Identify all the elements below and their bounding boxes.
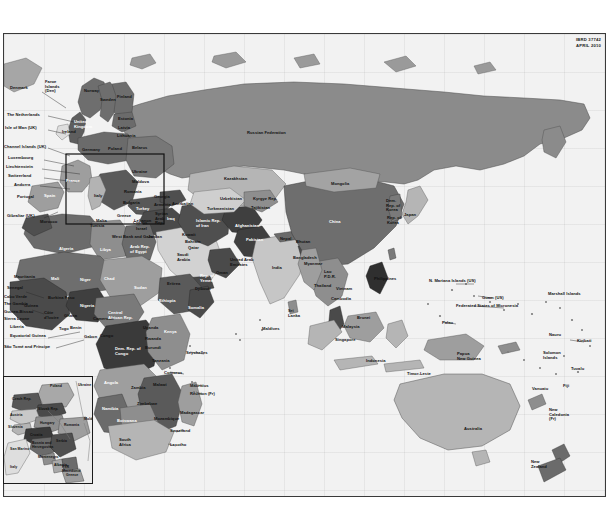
inset-country-label: Czech Rep. <box>12 397 31 401</box>
country-label: Belarus <box>132 146 147 151</box>
country-label: Guinea-Bissau <box>4 310 33 315</box>
country-label: Senegal <box>7 286 23 291</box>
country-label: Madagascar <box>180 411 204 416</box>
country-label: Equatorial Guinea <box>10 334 46 339</box>
country-label: Portugal <box>17 195 34 200</box>
country-label: New Zealand <box>531 460 547 469</box>
land-severnaya-zemlya <box>294 54 320 68</box>
country-label: Islamic Rep. of Iran <box>196 219 221 228</box>
country-label: Sri Lanka <box>288 309 300 318</box>
country-label: Finland <box>117 95 132 100</box>
land-japan <box>402 186 428 224</box>
country-label: Indonesia <box>366 359 386 364</box>
inset-country-label: Ukraine <box>78 383 91 387</box>
country-label: Dem. Rep. of Korea <box>386 199 400 213</box>
country-label: Gibraltar (UK) <box>7 214 35 219</box>
country-label: Tuvalu <box>571 367 584 372</box>
country-label: Mauritius <box>190 384 209 389</box>
country-label: Pakistan <box>246 238 263 243</box>
country-label: Burundi <box>145 346 161 351</box>
country-label: Botswana <box>117 419 137 424</box>
country-label: Norway <box>84 89 99 94</box>
country-label: Angola <box>104 381 118 386</box>
land-tasmania <box>472 450 490 466</box>
country-label: Switzerland <box>8 174 31 179</box>
country-label: Kuwait <box>182 233 196 238</box>
country-label: Marshall Islands <box>548 292 581 297</box>
country-label: N. Mariana Islands (US) <box>429 279 476 284</box>
country-label: United Kingdom <box>74 120 92 129</box>
country-label: Congo <box>100 334 113 339</box>
country-label: Zimbabwe <box>137 402 157 407</box>
land-new-siberian-islands <box>384 56 416 72</box>
country-label: Tunisia <box>90 224 104 229</box>
country-label: Chad <box>104 277 114 282</box>
country-label: Mauritania <box>14 275 35 280</box>
country-label: Sweden <box>100 98 116 103</box>
inset-country-label: Moldova <box>84 417 93 421</box>
country-label: Azerbaijan <box>172 202 193 207</box>
country-label: Mongolia <box>331 182 349 187</box>
inset-country-label: Slovak Rep. <box>38 407 58 411</box>
country-label: Turkmenistan <box>207 207 234 212</box>
central-eastern-europe-inset: PolandCzech Rep.Slovak Rep.AustriaHungar… <box>3 376 93 484</box>
inset-country-label: Croatia <box>30 433 42 437</box>
credit-line-2: APRIL 2010 <box>576 43 601 49</box>
country-label: Georgia <box>154 195 170 200</box>
country-label: Libya <box>100 248 111 253</box>
land-new-caledonia <box>528 394 546 410</box>
country-label: Côte d'Ivoire <box>44 311 59 320</box>
country-label: United Arab Emirates <box>230 258 254 267</box>
country-label: Réunion (Fr) <box>190 392 215 397</box>
land-sulawesi <box>386 320 408 348</box>
country-label: Rep. of Yemen <box>200 274 214 283</box>
country-label: Malawi <box>153 383 167 388</box>
country-label: Nepal <box>280 237 291 242</box>
country-label: West Bank and Gaza <box>112 235 153 240</box>
world-map-frame: DenmarkFaroe Islands (Den)The Netherland… <box>3 33 606 497</box>
land-solomon-islands <box>498 342 520 354</box>
country-label: Nigeria <box>80 304 94 309</box>
country-label: Afghanistan <box>235 224 259 229</box>
country-label: Bhutan <box>296 240 310 245</box>
land-taiwan <box>388 248 396 260</box>
country-label: South Africa <box>119 438 131 447</box>
country-label: Federated States of Micronesia <box>456 304 518 309</box>
country-label: France <box>66 179 80 184</box>
land-australia <box>394 374 520 450</box>
country-label: Bangladesh <box>293 256 317 261</box>
country-label: Myanmar <box>304 262 322 267</box>
country-label: Turkey <box>136 207 149 212</box>
country-label: Poland <box>108 147 122 152</box>
land-novaya-zemlya <box>212 52 246 68</box>
country-label: Ireland <box>62 130 76 135</box>
country-label: Liberia <box>10 325 24 330</box>
country-label: Palau <box>442 321 453 326</box>
inset-country-label: Bosnia and Herzegovina <box>32 441 58 449</box>
country-label: Dem. Rep. of Congo <box>115 347 141 356</box>
country-label: Israel <box>136 227 147 232</box>
inset-country-label: Hungary <box>40 421 55 425</box>
country-label: Kenya <box>164 330 177 335</box>
country-label: Bulgaria <box>123 201 140 206</box>
land-wrangel <box>474 62 496 74</box>
country-label: Japan <box>404 213 416 218</box>
country-label: India <box>272 266 282 271</box>
country-label: Luxembourg <box>8 156 33 161</box>
country-label: Jordan <box>148 235 162 240</box>
country-label: Tajikistan <box>251 206 270 211</box>
country-label: Kiribati <box>577 339 592 344</box>
country-label: Solomon Islands <box>543 351 561 360</box>
country-label: Brunei <box>357 316 370 321</box>
country-label: Guam (US) <box>482 296 504 301</box>
country-label: Malaysia <box>342 325 359 330</box>
country-label: Russian Federation <box>247 131 286 136</box>
inset-country-label: Italy <box>10 465 17 469</box>
inset-country-label: Greece <box>66 473 78 477</box>
country-label: Spain <box>44 194 55 199</box>
country-label: Andorra <box>14 183 30 188</box>
country-label: Tanzania <box>152 359 170 364</box>
country-label: Niger <box>80 278 91 283</box>
country-label: Mozambique <box>154 417 179 422</box>
country-label: Latvia <box>118 126 130 131</box>
